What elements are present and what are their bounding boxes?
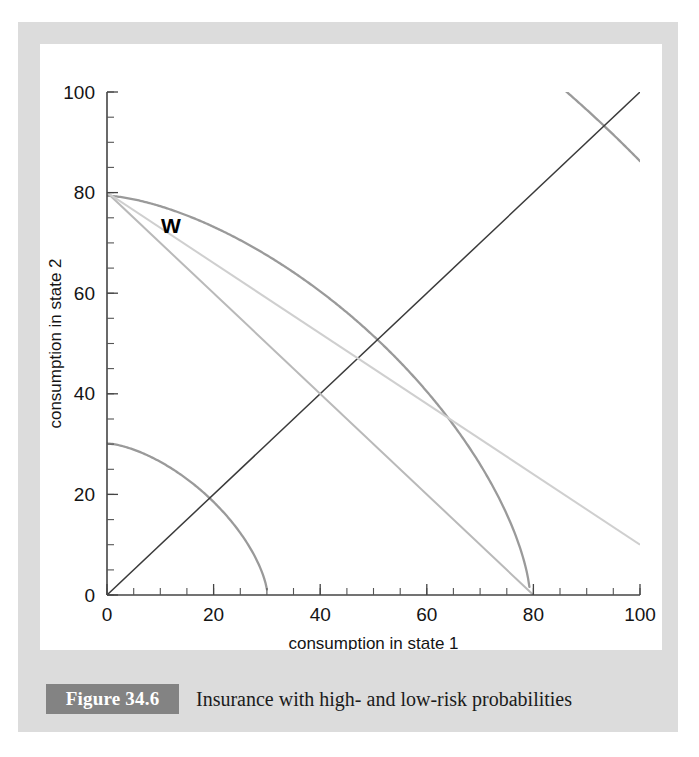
x-tick-label: 40 [310, 604, 331, 625]
figure-number-badge: Figure 34.6 [46, 684, 179, 714]
x-tick-label: 20 [203, 604, 224, 625]
figure-caption: Insurance with high- and low-risk probab… [196, 684, 572, 714]
clipped-curves [107, 44, 640, 595]
x-tick-label: 100 [624, 604, 656, 625]
chart-canvas: 020406080100020406080100consumption in s… [40, 44, 662, 650]
figure-container: 020406080100020406080100consumption in s… [0, 0, 699, 757]
y-tick-label: 0 [84, 585, 95, 606]
y-axis-title: consumption in state 2 [46, 258, 65, 428]
x-tick-label: 80 [523, 604, 544, 625]
x-tick-label: 0 [102, 604, 113, 625]
y-tick-label: 80 [74, 182, 95, 203]
x-axis-title: consumption in state 1 [288, 634, 458, 650]
series-5 [107, 443, 267, 589]
y-tick-label: 40 [74, 383, 95, 404]
x-tick-label: 60 [416, 604, 437, 625]
series-9 [107, 92, 640, 595]
series-11 [107, 193, 640, 545]
y-tick-label: 60 [74, 283, 95, 304]
endowment-point-label: W [161, 214, 181, 237]
series-7 [393, 44, 640, 161]
y-tick-label: 100 [63, 82, 95, 103]
y-tick-label: 20 [74, 484, 95, 505]
curves-layer [107, 44, 640, 595]
